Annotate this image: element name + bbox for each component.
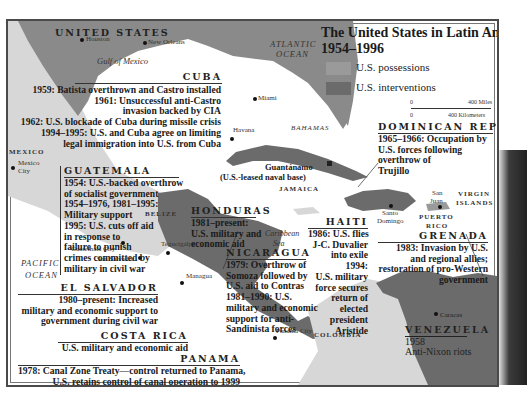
label-gulf-of-mexico: Gulf of Mexico <box>97 57 148 66</box>
scale-miles-zero: 0 <box>410 99 413 105</box>
label-santo-domingo-2: Domingo <box>377 218 403 225</box>
houston-dot <box>80 38 84 42</box>
label-virgin-2: ISLANDS <box>456 200 493 207</box>
caracas-dot <box>434 312 438 316</box>
label-caracas: Caracas <box>440 312 462 319</box>
scale-bar <box>411 108 491 109</box>
label-virgin-1: VIRGIN <box>458 191 490 198</box>
panama-city-dot <box>273 336 277 340</box>
managua-dot <box>180 281 184 285</box>
haiti-event: president <box>308 315 368 326</box>
miami-dot <box>253 97 257 101</box>
grenada-block: GRENADA 1983: Invasion by U.S. and regio… <box>378 231 488 286</box>
map-title-line2: 1954–1996 <box>321 41 499 57</box>
dominican-republic-block: DOMINICAN REPUBLIC 1965–1966: Occupation… <box>378 122 493 177</box>
label-pacific-2: OCEAN <box>25 271 58 280</box>
mexico-city-dot <box>11 166 15 170</box>
legend-label-interventions: U.S. interventions <box>356 82 436 94</box>
el-salvador-event: government during civil war <box>18 316 158 327</box>
guatemala-block: GUATEMALA 1954: U.S.-backed overthrow of… <box>60 166 183 275</box>
label-bahamas: BAHAMAS <box>291 125 330 132</box>
cuba-event: legal immigration into U.S. from Cuba <box>16 139 221 150</box>
label-houston: Houston <box>86 36 110 43</box>
havana-dot <box>230 137 234 141</box>
jamaica <box>293 207 320 215</box>
dominican-republic-event: Trujillo <box>378 166 493 177</box>
costa-rica-block: COSTA RICA U.S. military and economic ai… <box>58 331 188 354</box>
panama-block: PANAMA 1978: Canal Zone Treaty—control r… <box>18 354 240 387</box>
honduras-block: HONDURAS 1981–present: U.S. military and… <box>191 206 261 250</box>
new-orleans-dot <box>143 41 147 45</box>
label-pacific-1: PACIFIC <box>21 259 59 268</box>
cuba-block: CUBA <box>75 72 222 84</box>
map-title: The United States in Latin America, 1954… <box>321 25 499 57</box>
haiti-block: HAITI 1986: U.S. flies J-C. Duvalier int… <box>308 217 368 336</box>
map-frame: The United States in Latin America, 1954… <box>6 19 499 387</box>
label-jamaica: JAMAICA <box>279 186 319 193</box>
legend-label-possessions: U.S. possessions <box>356 62 430 74</box>
haiti-event: Aristide <box>308 326 368 337</box>
label-mexico-city-2: City <box>18 168 30 175</box>
grenada-event: government <box>378 275 488 286</box>
el-salvador-block: EL SALVADOR 1980–present: Increased mili… <box>18 283 158 327</box>
guatemala-event: military in civil war <box>64 264 183 275</box>
panama-event: U.S. retains control of canal operation … <box>18 377 240 387</box>
label-guantanamo-2: (U.S.-leased naval base) <box>220 173 306 183</box>
venezuela-block: VENEZUELA 1958 Anti-Nixon riots <box>405 325 471 358</box>
label-atlantic-2: OCEAN <box>276 50 309 59</box>
cuba-events: 1959: Batista overthrown and Castro inst… <box>16 85 221 149</box>
label-atlantic-1: ATLANTIC <box>270 40 316 49</box>
guantanamo-marker <box>327 161 332 166</box>
scale-km-max: 400 Kilometers <box>448 112 485 118</box>
scale-km-zero: 0 <box>410 112 413 118</box>
label-miami: Miami <box>258 95 277 102</box>
page-edge-shadow <box>497 150 527 385</box>
hispaniola <box>344 189 416 211</box>
label-new-orleans: New Orleans <box>148 39 185 46</box>
scale-miles-max: 400 Miles <box>468 99 492 105</box>
nicaragua-block: NICARAGUA 1979: Overthrow of Somoza foll… <box>226 248 318 335</box>
map-title-line1: The United States in Latin America, <box>321 25 499 41</box>
label-havana: Havana <box>233 127 254 134</box>
cuba-heading: CUBA <box>75 72 222 84</box>
label-mexico: MEXICO <box>9 149 45 156</box>
legend-swatch-possessions <box>326 62 351 75</box>
label-puerto-rico-1: PUERTO <box>419 214 454 221</box>
venezuela-event: Anti-Nixon riots <box>405 347 471 358</box>
label-caribbean-1: Caribbean <box>265 230 299 238</box>
legend-swatch-interventions <box>326 82 351 95</box>
label-united-states: UNITED STATES <box>55 28 170 38</box>
nicaragua-event: Sandinista forces <box>226 324 318 335</box>
san-juan-dot <box>438 205 442 209</box>
label-managua: Managua <box>186 273 212 280</box>
santo-domingo-dot <box>389 204 393 208</box>
costa-rica-event: U.S. military and economic aid <box>58 343 188 354</box>
